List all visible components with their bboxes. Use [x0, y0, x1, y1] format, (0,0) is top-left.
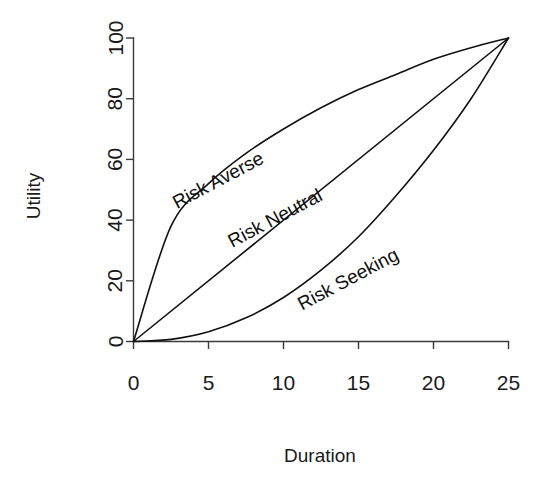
- x-tick-label-20: 20: [422, 371, 445, 394]
- x-tick-label-5: 5: [203, 371, 215, 394]
- x-axis-title: Duration: [284, 445, 356, 466]
- chart-canvas: 100 80 60 40 20 0 0 5 10 15 20 25 Utilit…: [0, 0, 543, 488]
- y-tick-label-60: 60: [104, 148, 127, 171]
- utility-curves-chart: 100 80 60 40 20 0 0 5 10 15 20 25 Utilit…: [0, 0, 543, 488]
- x-tick-label-15: 15: [347, 371, 370, 394]
- y-tick-label-0: 0: [104, 336, 127, 348]
- y-tick-label-100: 100: [104, 20, 127, 55]
- y-tick-label-40: 40: [104, 208, 127, 231]
- y-tick-label-20: 20: [104, 269, 127, 292]
- x-tick-label-25: 25: [497, 371, 520, 394]
- chart-background: [0, 0, 543, 488]
- y-tick-label-80: 80: [104, 87, 127, 110]
- x-tick-label-0: 0: [128, 371, 140, 394]
- y-axis-title: Utility: [23, 172, 44, 219]
- x-tick-label-10: 10: [272, 371, 295, 394]
